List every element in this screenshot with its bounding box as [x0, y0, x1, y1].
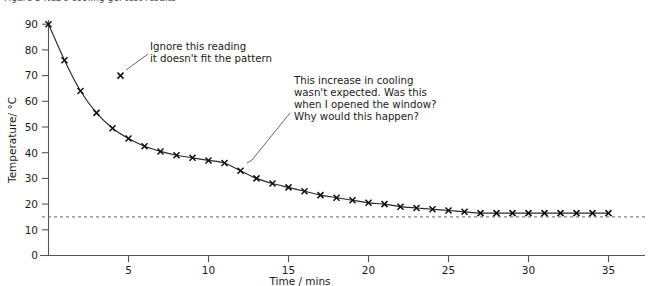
data-series-outlier — [118, 73, 124, 79]
outlier-annotation-line-2: it doesn't fit the pattern — [150, 53, 272, 64]
cooling-curve-chart: 0 10 20 30 40 50 60 70 80 90 Temperature… — [0, 0, 653, 286]
y-tick-label-60: 60 — [25, 95, 38, 107]
cooling-increase-annotation-line-3: when I opened the window? — [294, 99, 436, 110]
data-point-marker — [142, 143, 148, 149]
x-tick-label-30: 30 — [522, 264, 535, 276]
x-tick-label-25: 25 — [442, 264, 455, 276]
y-tick-label-90: 90 — [25, 18, 38, 30]
data-point-marker — [110, 125, 116, 131]
data-point-marker — [62, 57, 68, 63]
x-axis-title: Time / mins — [268, 275, 330, 286]
y-axis-title: Temperature/ °C — [6, 97, 18, 184]
cooling-increase-annotation-line-2: wasn't expected. Was this — [294, 87, 427, 98]
outlier-annotation-line-1: Ignore this reading — [150, 41, 246, 52]
y-tick-label-50: 50 — [25, 121, 38, 133]
data-point-marker — [78, 88, 84, 94]
cooling-increase-annotation-line-1: This increase in cooling — [293, 75, 413, 86]
y-tick-label-80: 80 — [25, 44, 38, 56]
data-point-marker — [94, 110, 100, 116]
x-tick-label-10: 10 — [202, 264, 215, 276]
y-axis: 0 10 20 30 40 50 60 70 80 90 Temperature… — [6, 18, 49, 261]
y-tick-label-0: 0 — [31, 249, 38, 261]
outlier-annotation: Ignore this reading it doesn't fit the p… — [126, 41, 272, 70]
cooling-increase-annotation-line-4: Why would this happen? — [294, 111, 419, 122]
y-tick-label-10: 10 — [25, 224, 38, 236]
outlier-annotation-leader-line — [126, 54, 148, 70]
y-tick-label-70: 70 — [25, 69, 38, 81]
cooling-increase-annotation: This increase in cooling wasn't expected… — [247, 75, 436, 163]
data-point-marker — [126, 136, 132, 142]
y-tick-label-30: 30 — [25, 172, 38, 184]
y-tick-label-40: 40 — [25, 147, 38, 159]
data-point-marker — [254, 175, 260, 181]
x-tick-label-5: 5 — [125, 264, 132, 276]
outlier-point-marker — [118, 73, 124, 79]
figure-root: Figure 5 Naz's cooling gel test results … — [0, 0, 653, 286]
cooling-increase-annotation-leader-line — [247, 113, 290, 163]
data-point-marker — [238, 168, 244, 174]
x-tick-label-35: 35 — [602, 264, 615, 276]
x-tick-label-20: 20 — [362, 264, 375, 276]
x-axis: 5 10 15 20 25 30 35 Time / mins — [40, 256, 645, 286]
y-tick-label-20: 20 — [25, 198, 38, 210]
